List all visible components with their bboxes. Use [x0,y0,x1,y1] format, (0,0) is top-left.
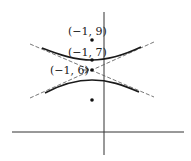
vertex-upper-label: (−1, 7) [68,46,107,59]
hyperbola-diagram: (−1, 9) (−1, 7) (−1, 6) [0,0,191,161]
center-label: (−1, 6) [50,64,89,77]
focus-upper-point [90,38,94,42]
hyperbola-lower-branch [45,80,139,93]
focus-lower-point [90,98,94,102]
center-point [90,68,94,72]
focus-upper-label: (−1, 9) [68,25,107,38]
